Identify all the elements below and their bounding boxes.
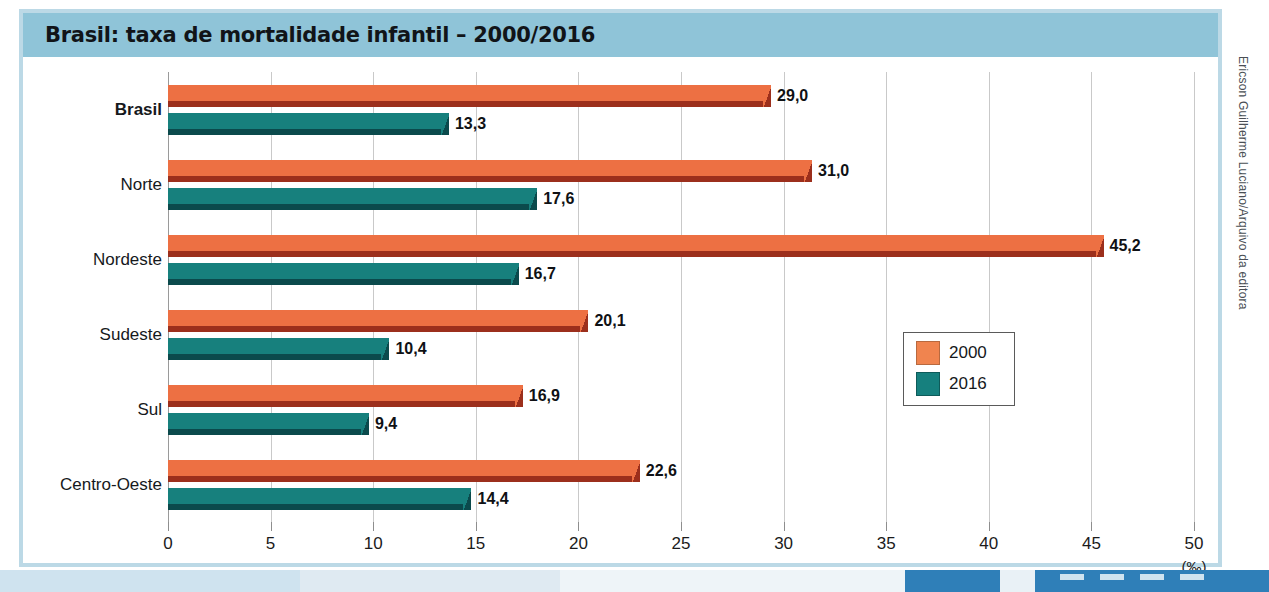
image-credit: Ericson Guilherme Luciano/Arquivo da edi…	[1232, 56, 1250, 356]
bar-shadow	[168, 279, 511, 285]
gridline-35	[886, 72, 887, 522]
legend-label-2000: 2000	[949, 343, 987, 363]
bar-face	[168, 488, 463, 504]
x-tick-label-40: 40	[979, 534, 998, 554]
x-tick-5	[271, 522, 272, 531]
plot-area: 05101520253035404550(‰)Brasil29,013,3Nor…	[168, 72, 1194, 522]
x-tick-30	[784, 522, 785, 531]
bar-face	[168, 235, 1096, 251]
bar-end-cap	[763, 85, 771, 107]
bar-end-cap	[632, 460, 640, 482]
bar-shadow	[168, 401, 515, 407]
x-tick-40	[989, 522, 990, 531]
bar-2016-nordeste	[168, 263, 511, 285]
bar-2000-brasil	[168, 85, 763, 107]
bar-shadow	[168, 101, 763, 107]
bar-end-cap	[580, 310, 588, 332]
bar-2016-norte	[168, 188, 529, 210]
value-label-2000-brasil: 29,0	[777, 87, 808, 105]
legend-item-2000: 2000	[916, 341, 1014, 365]
x-tick-label-0: 0	[163, 534, 172, 554]
category-label-sul: Sul	[137, 400, 162, 420]
bar-shadow	[168, 476, 632, 482]
bar-shadow	[168, 429, 361, 435]
bar-2016-brasil	[168, 113, 441, 135]
bar-face	[168, 85, 763, 101]
value-label-2000-nordeste: 45,2	[1110, 237, 1141, 255]
bar-end-cap	[463, 488, 471, 510]
gridline-25	[681, 72, 682, 522]
x-tick-35	[886, 522, 887, 531]
value-label-2016-nordeste: 16,7	[525, 265, 556, 283]
value-label-2016-norte: 17,6	[543, 190, 574, 208]
category-label-brasil: Brasil	[115, 100, 162, 120]
gridline-45	[1091, 72, 1092, 522]
gridline-40	[989, 72, 990, 522]
value-label-2000-sul: 16,9	[529, 387, 560, 405]
bar-face	[168, 385, 515, 401]
bar-face	[168, 263, 511, 279]
x-tick-label-15: 15	[466, 534, 485, 554]
bar-2000-sudeste	[168, 310, 580, 332]
x-tick-50	[1194, 522, 1195, 531]
value-label-2016-sudeste: 10,4	[395, 340, 426, 358]
legend-swatch-2000	[916, 341, 940, 365]
gridline-50	[1194, 72, 1195, 522]
x-tick-15	[476, 522, 477, 531]
x-tick-label-10: 10	[364, 534, 383, 554]
chart-canvas: 05101520253035404550(‰)Brasil29,013,3Nor…	[23, 60, 1218, 563]
gridline-15	[476, 72, 477, 522]
bar-end-cap	[804, 160, 812, 182]
category-label-norte: Norte	[120, 175, 162, 195]
bar-face	[168, 460, 632, 476]
bar-shadow	[168, 251, 1096, 257]
bar-end-cap	[515, 385, 523, 407]
x-tick-label-30: 30	[774, 534, 793, 554]
bar-2016-centro-oeste	[168, 488, 463, 510]
bar-face	[168, 188, 529, 204]
x-tick-45	[1091, 522, 1092, 531]
x-tick-25	[681, 522, 682, 531]
bar-shadow	[168, 326, 580, 332]
gridline-5	[271, 72, 272, 522]
page-bleed-strip	[0, 570, 1269, 592]
gridline-0	[168, 72, 169, 522]
bar-2000-nordeste	[168, 235, 1096, 257]
legend-swatch-2016	[916, 372, 940, 396]
x-tick-20	[578, 522, 579, 531]
x-tick-0	[168, 522, 169, 531]
gridline-10	[373, 72, 374, 522]
value-label-2000-centro-oeste: 22,6	[646, 462, 677, 480]
bar-shadow	[168, 204, 529, 210]
page-title: Brasil: taxa de mortalidade infantil – 2…	[45, 23, 595, 47]
x-tick-label-25: 25	[672, 534, 691, 554]
bar-2016-sudeste	[168, 338, 381, 360]
chart-title-bar: Brasil: taxa de mortalidade infantil – 2…	[23, 13, 1218, 57]
value-label-2000-norte: 31,0	[818, 162, 849, 180]
value-label-2016-sul: 9,4	[375, 415, 397, 433]
category-label-nordeste: Nordeste	[93, 250, 162, 270]
bar-face	[168, 338, 381, 354]
value-label-2016-brasil: 13,3	[455, 115, 486, 133]
bar-2000-centro-oeste	[168, 460, 632, 482]
bar-end-cap	[511, 263, 519, 285]
bar-face	[168, 413, 361, 429]
x-tick-label-35: 35	[877, 534, 896, 554]
bar-shadow	[168, 504, 463, 510]
legend-item-2016: 2016	[916, 372, 1014, 396]
bar-face	[168, 310, 580, 326]
bar-end-cap	[441, 113, 449, 135]
chart-page: Brasil: taxa de mortalidade infantil – 2…	[0, 0, 1269, 592]
bar-2000-sul	[168, 385, 515, 407]
bar-shadow	[168, 129, 441, 135]
gridline-30	[784, 72, 785, 522]
category-label-sudeste: Sudeste	[100, 325, 162, 345]
value-label-2000-sudeste: 20,1	[594, 312, 625, 330]
x-tick-label-5: 5	[266, 534, 275, 554]
x-tick-10	[373, 522, 374, 531]
x-tick-label-45: 45	[1082, 534, 1101, 554]
value-label-2016-centro-oeste: 14,4	[477, 490, 508, 508]
x-tick-label-50: 50	[1185, 534, 1204, 554]
bar-end-cap	[361, 413, 369, 435]
bar-2016-sul	[168, 413, 361, 435]
